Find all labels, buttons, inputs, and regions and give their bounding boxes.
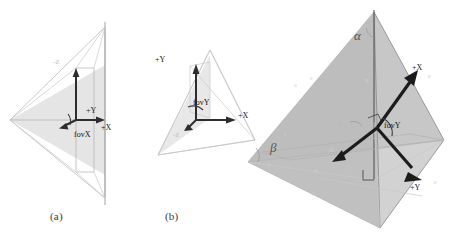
edge-tick-c-5: e [428,73,431,79]
frustum-edge-a-4 [76,172,105,198]
caption-b: (b) [165,210,178,222]
panel-c-perspective-frustum: a e c u e c a a u e e c α β O +X +Y -Z f… [232,0,461,249]
edge-tick-c-8: a [314,167,317,173]
frustum-edge-a-3 [76,27,105,68]
edge-tick-c-9: u [384,181,387,187]
edge-tick-c-4: u [365,77,368,83]
axis-y-label-b: +Y [155,55,166,64]
edge-tick-c-11: e [434,179,437,185]
figure-root: -Z +Y +X fovX +Y +X -Z fovY [0,0,461,249]
axis-x-label-a: +X [101,123,112,132]
edge-tick-c-3: c [284,131,287,137]
axis-z-label-a: -Z [53,58,60,66]
fovy-label-b: fovY [193,98,210,107]
axis-z-label-b: -Z [173,131,180,139]
axis-y-label-c: +Y [410,183,421,192]
edge-tick-c-2: e [310,75,313,81]
caption-a: (a) [50,210,63,222]
edge-tick-c-1: a [294,82,297,88]
axis-y-label-a: +Y [86,106,97,115]
fovy-label-c: fovY [384,121,401,130]
axis-z-label-c: -Z [328,147,334,153]
beta-label-c: β [269,140,277,155]
fovx-label-a: fovX [74,130,91,139]
edge-tick-c-6: c [398,131,401,137]
edge-tick-c-10: e [312,191,315,197]
panel-a-top-down-frustum: -Z +Y +X fovX [0,0,160,210]
origin-label-c: O [338,120,343,128]
edge-tick-c-12: c [268,161,271,167]
alpha-label-c: α [354,28,362,43]
frustum-edge-a-5 [94,27,105,68]
axis-y-arrowhead-a [73,68,80,77]
axis-x-label-c: +X [412,63,423,72]
frustum-edge-a-6 [94,172,105,198]
edge-tick-c-7: a [408,151,411,157]
